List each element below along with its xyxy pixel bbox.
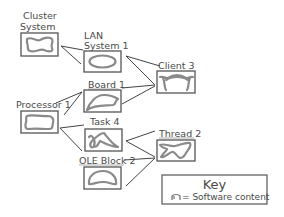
node-label: Task 4 [89, 116, 120, 127]
node-thread-2[interactable]: Thread 2 [157, 128, 201, 161]
node-label: Thread 2 [158, 128, 201, 139]
edge-processor-task [60, 125, 84, 128]
node-label: Client 3 [158, 60, 195, 71]
node-label: System [20, 21, 55, 32]
node-label: Processor 1 [16, 99, 71, 110]
node-label: Cluster [23, 10, 57, 21]
edge-board-client-bottom [122, 86, 155, 104]
node-client-3[interactable]: Client 3 [157, 60, 195, 93]
node-label: System 1 [84, 40, 129, 51]
hierarchy-diagram: Cluster System LAN System 1 Client 3 Boa… [0, 0, 284, 217]
node-board-1[interactable]: Board 1 [84, 79, 125, 112]
node-label: Board 1 [88, 79, 125, 90]
node-ole-block-2[interactable]: OLE Block 2 [79, 155, 136, 189]
key-text: = Software content [182, 192, 270, 202]
edge-processor-ole [60, 128, 82, 151]
node-label: OLE Block 2 [79, 155, 136, 166]
key-title: Key [203, 177, 227, 192]
edge-board-client-top [122, 85, 155, 88]
node-lan-system-1[interactable]: LAN System 1 [84, 30, 129, 72]
node-task-4[interactable]: Task 4 [85, 116, 122, 151]
legend-key: Key = Software content [162, 175, 270, 204]
node-cluster-system[interactable]: Cluster System [20, 10, 58, 56]
edge-task-thread-top [126, 131, 155, 141]
